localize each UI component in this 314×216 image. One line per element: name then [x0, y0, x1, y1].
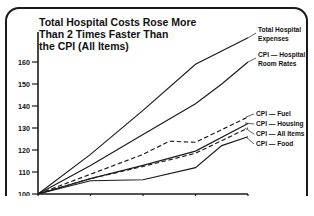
legend-labels: Total Hospital Expenses CPI — Hospital R…: [256, 26, 305, 147]
legend-label-total-hospital-expenses-line-1: Total Hospital: [258, 26, 301, 34]
legend-label-cpi-hospital-room-rates-line-1: CPI — Hospital: [258, 51, 305, 59]
y-axis-ticks: [32, 62, 38, 194]
legend-label-cpi-food: CPI — Food: [256, 140, 293, 147]
y-tick-label-150: 150: [18, 80, 30, 89]
series-line-cpi-hospital-room-rates: [38, 62, 248, 194]
y-tick-label-130: 130: [18, 124, 30, 133]
leader-cpi-fuel: [246, 114, 254, 117]
leader-total-hospital-expenses: [248, 33, 256, 38]
series-line-cpi-all-items: [38, 128, 248, 194]
legend-leader-lines: [245, 33, 256, 144]
frame-bottom-mask: [0, 196, 314, 216]
leader-cpi-hospital-room-rates: [248, 58, 256, 62]
chart-title-line-3: the CPI (All Items): [39, 40, 129, 52]
leader-cpi-all-items: [245, 128, 254, 134]
chart-canvas: Total Hospital Costs Rose More Than 2 Ti…: [0, 0, 314, 216]
chart-title: Total Hospital Costs Rose More Than 2 Ti…: [39, 16, 196, 52]
legend-label-cpi-all-items: CPI — All Items: [256, 130, 305, 137]
legend-label-cpi-hospital-room-rates-line-2: Room Rates: [258, 60, 297, 67]
legend-label-total-hospital-expenses-line-2: Expenses: [258, 35, 289, 43]
legend-label-cpi-housing: CPI — Housing: [256, 120, 304, 128]
y-tick-label-110: 110: [18, 168, 30, 177]
series-line-cpi-fuel: [38, 117, 248, 194]
chart-title-line-1: Total Hospital Costs Rose More: [39, 16, 196, 28]
legend-label-cpi-fuel: CPI — Fuel: [256, 110, 291, 117]
chart-title-line-2: Than 2 Times Faster Than: [39, 28, 168, 40]
leader-cpi-food: [246, 137, 254, 144]
y-tick-label-140: 140: [18, 102, 30, 111]
y-axis-tick-labels: 100 110 120 130 140 150 160: [18, 58, 30, 199]
series-line-total-hospital-expenses: [38, 38, 248, 194]
series-layer: [38, 38, 248, 194]
y-tick-label-120: 120: [18, 146, 30, 155]
y-tick-label-160: 160: [18, 58, 30, 67]
